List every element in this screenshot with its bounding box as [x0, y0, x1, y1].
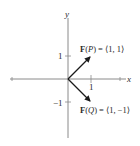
vector-f-q-label: F(Q)= ⟨1, −1⟩: [80, 105, 130, 115]
vector-diagram: x y 1 1 −1 F(P)= ⟨1, 1⟩ F(Q)= ⟨1, −1⟩: [0, 0, 140, 146]
vector-f-q-value: = ⟨1, −1⟩: [99, 105, 130, 115]
x-tick-label-1: 1: [89, 82, 94, 92]
y-tick-label-neg1: −1: [53, 98, 63, 108]
vector-f-p-label: F(P)= ⟨1, 1⟩: [80, 44, 124, 54]
vector-f-p-value: = ⟨1, 1⟩: [98, 44, 124, 54]
y-axis-label: y: [64, 9, 69, 19]
y-axis: [65, 18, 71, 138]
paren-close: ): [93, 44, 96, 54]
y-tick-label-1: 1: [58, 51, 63, 61]
vector-f-p-arrow: [68, 57, 90, 79]
x-axis-label: x: [126, 74, 131, 84]
vector-f-q-arrow: [68, 79, 90, 101]
paren-close: ): [94, 105, 97, 115]
